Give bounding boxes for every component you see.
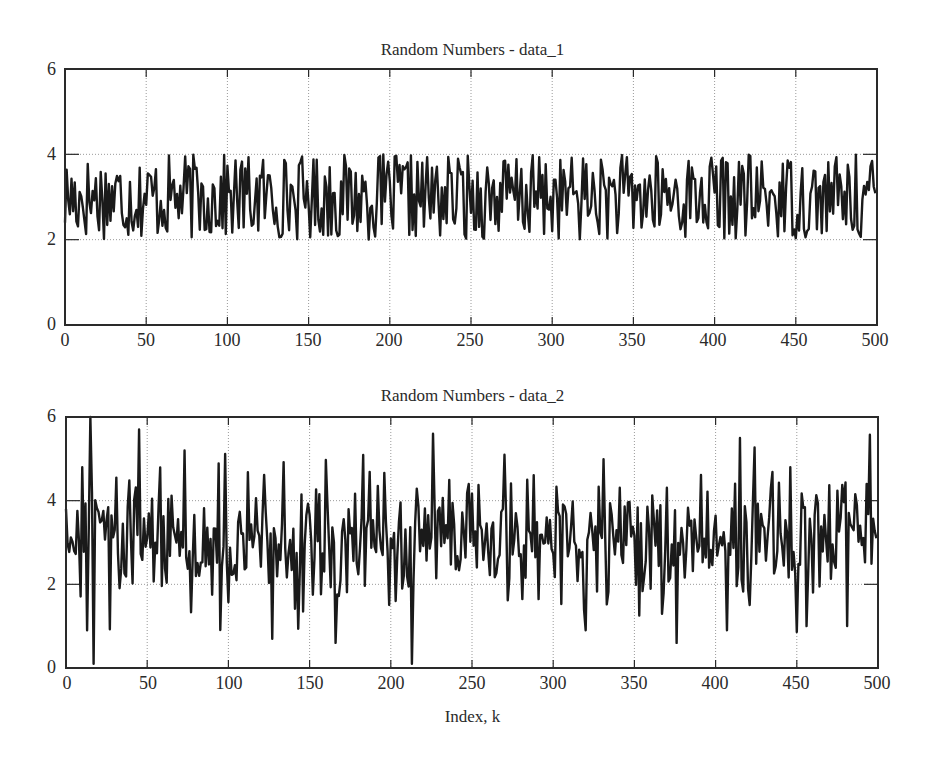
- plot1-xtick-350: 350: [602, 330, 662, 351]
- data-line-data_1: [65, 155, 875, 240]
- plot1-xtick-0: 0: [35, 330, 95, 351]
- plot1-xtick-250: 250: [440, 330, 500, 351]
- plot1-xtick-100: 100: [197, 330, 257, 351]
- plot2-ytick-6: 6: [36, 406, 56, 427]
- plot1-ytick-2: 2: [36, 229, 56, 250]
- plot1-xtick-150: 150: [278, 330, 338, 351]
- plot2-ytick-2: 2: [36, 574, 56, 595]
- plot2-ytick-4: 4: [36, 490, 56, 511]
- plot2-xtick-50: 50: [118, 673, 178, 694]
- plot2-xtick-500: 500: [847, 673, 907, 694]
- plot2-xtick-400: 400: [685, 673, 745, 694]
- plot1-ytick-6: 6: [36, 59, 56, 80]
- plot2-xtick-0: 0: [37, 673, 97, 694]
- data-line-data_2: [66, 417, 876, 664]
- plot2-xtick-450: 450: [766, 673, 826, 694]
- plot2-xtick-300: 300: [523, 673, 583, 694]
- plot1-xtick-400: 400: [683, 330, 743, 351]
- chart-canvas: [0, 0, 945, 764]
- plot2-xtick-150: 150: [280, 673, 340, 694]
- plot2-xtick-350: 350: [604, 673, 664, 694]
- plot1-xtick-500: 500: [845, 330, 905, 351]
- plot2-xtick-250: 250: [442, 673, 502, 694]
- plot2-xtick-100: 100: [199, 673, 259, 694]
- plot2-axes: [66, 417, 878, 668]
- plot1-xtick-200: 200: [359, 330, 419, 351]
- plot2-xtick-200: 200: [361, 673, 421, 694]
- plot1-axes: [65, 69, 877, 325]
- plot1-xtick-50: 50: [116, 330, 176, 351]
- plot1-xtick-450: 450: [764, 330, 824, 351]
- plot1-ytick-4: 4: [36, 144, 56, 165]
- x-axis-label: Index, k: [0, 707, 945, 727]
- plot1-xtick-300: 300: [521, 330, 581, 351]
